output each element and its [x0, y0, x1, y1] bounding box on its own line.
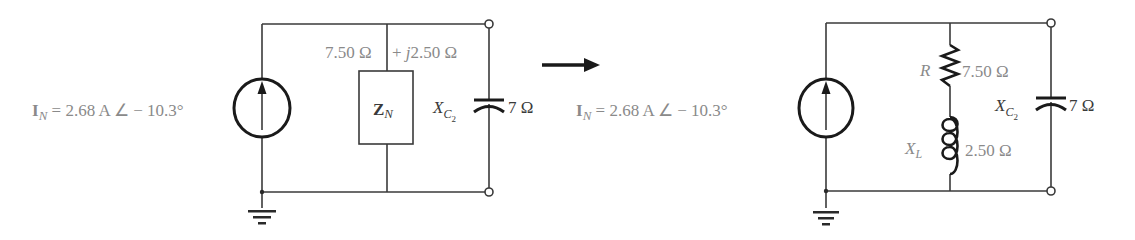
- circuit-diagram: ZN 7.50 Ω + j2.50 Ω XC2 7 Ω IN = 2.68 A …: [0, 0, 1135, 240]
- right-source-label: IN = 2.68 A ∠ − 10.3°: [576, 101, 728, 123]
- inductor-label: XL: [904, 139, 922, 161]
- impedance-imag-label: + j2.50 Ω: [392, 43, 457, 62]
- right-capacitor-value: 7 Ω: [1069, 96, 1094, 115]
- left-ground-icon: [248, 210, 276, 225]
- right-circuit: R 7.50 Ω XL 2.50 Ω XC2 7 Ω IN = 2.68 A ∠…: [576, 19, 1094, 226]
- right-top-terminal: [1047, 19, 1055, 27]
- resistor-icon: [942, 45, 958, 86]
- right-junction-dot: [824, 189, 828, 193]
- right-capacitor-label: XC2: [994, 96, 1018, 122]
- left-bottom-terminal: [485, 188, 493, 196]
- right-ground-icon: [813, 211, 839, 226]
- left-junction-dot: [260, 190, 264, 194]
- right-arrow-icon: [542, 58, 600, 72]
- resistor-label: R: [919, 61, 931, 80]
- resistor-value: 7.50 Ω: [962, 62, 1009, 81]
- right-bottom-terminal: [1047, 187, 1055, 195]
- left-capacitor-value: 7 Ω: [508, 98, 533, 117]
- right-current-source-icon: [799, 79, 853, 137]
- impedance-real-label: 7.50 Ω: [325, 43, 372, 62]
- left-current-source-icon: [234, 79, 290, 137]
- inductor-value: 2.50 Ω: [965, 141, 1012, 160]
- left-circuit: ZN 7.50 Ω + j2.50 Ω XC2 7 Ω IN = 2.68 A …: [32, 20, 533, 225]
- left-source-label: IN = 2.68 A ∠ − 10.3°: [32, 101, 184, 123]
- left-capacitor-label: XC2: [432, 98, 456, 124]
- left-top-terminal: [485, 20, 493, 28]
- inductor-icon: [943, 117, 958, 174]
